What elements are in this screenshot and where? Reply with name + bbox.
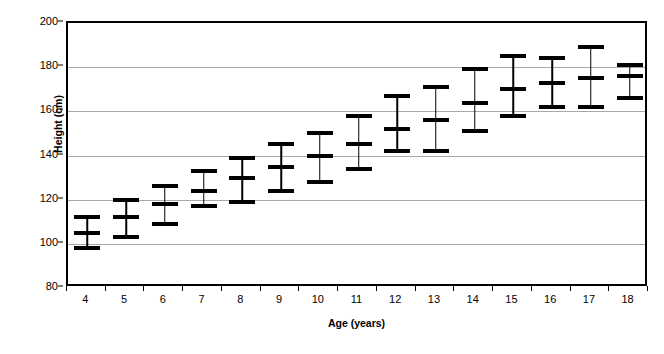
data-group [229,23,255,288]
lower-cap [191,204,217,208]
data-group [113,23,139,288]
data-group [462,23,488,288]
data-group [346,23,372,288]
data-group [423,23,449,288]
mean-cap [578,76,604,80]
upper-cap [346,114,372,118]
upper-cap [152,184,178,188]
x-axis-tick-mark [337,286,338,291]
x-axis-tick-mark [260,286,261,291]
mean-cap [539,81,565,85]
whisker-line [319,133,321,182]
mean-cap [346,142,372,146]
y-axis-tick-mark [58,21,63,22]
data-group [307,23,333,288]
data-group [191,23,217,288]
lower-cap [152,222,178,226]
x-axis-tick-label: 15 [496,293,526,305]
x-axis-tick-mark [453,286,454,291]
x-axis-tick-mark [376,286,377,291]
data-group [539,23,565,288]
upper-cap [462,67,488,71]
mean-cap [617,74,643,78]
x-axis-tick-label: 7 [187,293,217,305]
x-axis-tick-label: 8 [225,293,255,305]
mean-cap [384,127,410,131]
y-axis-tick-label: 80 [18,280,58,292]
mean-cap [229,176,255,180]
lower-cap [384,149,410,153]
x-axis-tick-label: 17 [574,293,604,305]
x-axis-tick-mark [608,286,609,291]
y-axis-tick-mark [58,241,63,242]
lower-cap [423,149,449,153]
mean-cap [462,101,488,105]
x-axis-tick-label: 14 [458,293,488,305]
data-group [152,23,178,288]
upper-cap [307,131,333,135]
y-axis-tick-mark [58,65,63,66]
data-group [268,23,294,288]
lower-cap [74,246,100,250]
lower-cap [229,200,255,204]
y-axis-tick-mark [58,109,63,110]
y-axis-tick-label: 160 [18,103,58,115]
x-axis-tick-label: 5 [109,293,139,305]
lower-cap [268,189,294,193]
lower-cap [113,235,139,239]
lower-cap [462,129,488,133]
x-axis-tick-label: 4 [70,293,100,305]
mean-cap [500,87,526,91]
lower-cap [539,105,565,109]
y-axis-tick-mark [58,197,63,198]
x-axis-tick-mark [105,286,106,291]
x-axis-tick-labels: 456789101112131415161718 [66,293,647,311]
y-axis-tick-mark [58,286,63,287]
mean-cap [191,189,217,193]
x-axis-tick-mark [415,286,416,291]
mean-cap [152,202,178,206]
whisker-line [513,56,515,116]
x-axis-tick-label: 16 [535,293,565,305]
data-group [384,23,410,288]
y-axis-tick-label: 200 [18,15,58,27]
lower-cap [307,180,333,184]
x-axis-tick-label: 12 [380,293,410,305]
x-axis-tick-label: 9 [264,293,294,305]
y-axis-tick-mark [58,153,63,154]
plot-area [66,21,647,286]
mean-cap [268,165,294,169]
upper-cap [423,85,449,89]
y-axis-tick-label: 140 [18,148,58,160]
whisker-line [242,158,244,202]
x-axis-tick-mark [298,286,299,291]
height-vs-age-chart: Height (cm) 80100120140160180200 4567891… [0,0,664,354]
x-axis-tick-mark [221,286,222,291]
x-axis-tick-label: 11 [342,293,372,305]
lower-cap [617,96,643,100]
whisker-line [629,65,631,98]
y-axis-tick-label: 120 [18,192,58,204]
lower-cap [346,167,372,171]
mean-cap [423,118,449,122]
upper-cap [539,56,565,60]
x-axis-tick-mark [66,286,67,291]
mean-cap [74,231,100,235]
data-group [617,23,643,288]
x-axis-tick-label: 10 [303,293,333,305]
x-axis-tick-label: 18 [613,293,643,305]
x-axis-tick-mark [570,286,571,291]
data-group [500,23,526,288]
y-axis-tick-label: 180 [18,59,58,71]
upper-cap [578,45,604,49]
data-group [74,23,100,288]
upper-cap [229,156,255,160]
x-axis-tick-mark [182,286,183,291]
upper-cap [191,169,217,173]
upper-cap [268,142,294,146]
x-axis-tick-label: 6 [148,293,178,305]
y-axis-tick-label: 100 [18,236,58,248]
lower-cap [578,105,604,109]
data-group [578,23,604,288]
mean-cap [113,215,139,219]
